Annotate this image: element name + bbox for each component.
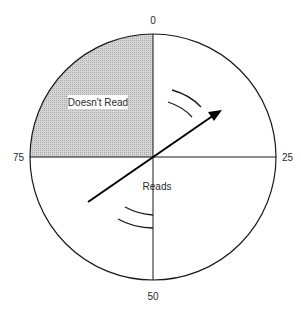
pointer-arrowhead-icon	[208, 110, 222, 121]
reads-label: Reads	[143, 181, 172, 192]
motion-arc-icon	[168, 102, 192, 117]
scale-label-25: 25	[282, 152, 294, 163]
dial-diagram: 0 25 50 75 Doesn't Read Reads	[0, 0, 301, 309]
doesnt-read-label: Doesn't Read	[68, 97, 128, 108]
motion-arc-icon	[125, 207, 153, 215]
scale-label-0: 0	[150, 15, 156, 26]
motion-arc-icon	[118, 219, 153, 228]
scale-label-50: 50	[147, 291, 159, 302]
motion-arc-icon	[172, 90, 201, 107]
scale-label-75: 75	[13, 152, 25, 163]
